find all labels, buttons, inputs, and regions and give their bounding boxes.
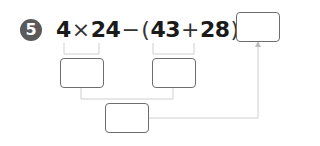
left-paren: ( — [141, 17, 149, 42]
step-box-product[interactable] — [60, 58, 104, 88]
operand-b: 24 — [91, 17, 121, 42]
operand-c: 43 — [150, 17, 180, 42]
operand-a: 4 — [56, 17, 71, 42]
minus-operator: − — [121, 17, 139, 42]
times-operator: × — [72, 17, 90, 42]
step-box-sum[interactable] — [152, 58, 196, 88]
step-box-difference[interactable] — [105, 103, 149, 133]
problem-number-badge: 5 — [20, 19, 42, 41]
answer-box[interactable] — [236, 12, 280, 42]
operand-d: 28 — [200, 17, 230, 42]
math-expression: 4×24−(43+28)= — [56, 14, 260, 46]
plus-operator: + — [181, 17, 199, 42]
